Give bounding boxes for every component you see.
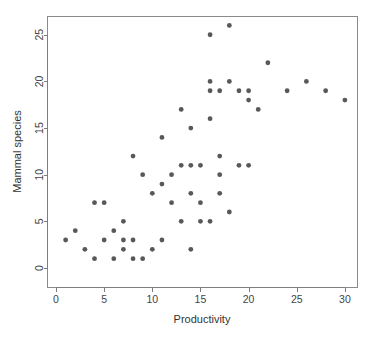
- data-point: [237, 88, 242, 93]
- data-point: [343, 98, 348, 103]
- data-point: [102, 200, 107, 205]
- data-point: [217, 172, 222, 177]
- data-point: [217, 88, 222, 93]
- data-point: [208, 32, 213, 37]
- data-point: [198, 200, 203, 205]
- x-tick-label-15: 15: [195, 293, 207, 305]
- data-point: [208, 116, 213, 121]
- data-point: [237, 163, 242, 168]
- data-point: [304, 79, 309, 84]
- data-point: [217, 154, 222, 159]
- data-point: [169, 200, 174, 205]
- data-point: [179, 163, 184, 168]
- data-point: [73, 228, 78, 233]
- x-tick-label-5: 5: [101, 293, 107, 305]
- data-point: [92, 200, 97, 205]
- data-point: [208, 88, 213, 93]
- data-point: [102, 238, 107, 243]
- data-point: [82, 247, 87, 252]
- data-point: [111, 228, 116, 233]
- y-tick-label-10: 10: [33, 169, 45, 181]
- data-point: [111, 256, 116, 261]
- data-point: [150, 247, 155, 252]
- data-point: [227, 23, 232, 28]
- data-point: [246, 98, 251, 103]
- x-tick-label-10: 10: [146, 293, 158, 305]
- data-point: [169, 172, 174, 177]
- x-tick-label-0: 0: [53, 293, 59, 305]
- data-point: [208, 79, 213, 84]
- x-tick-label-20: 20: [243, 293, 255, 305]
- data-point: [188, 247, 193, 252]
- data-point: [140, 172, 145, 177]
- data-point: [188, 191, 193, 196]
- data-point: [160, 135, 165, 140]
- data-point: [227, 210, 232, 215]
- y-axis-title: Mammal species: [11, 110, 23, 193]
- scatter-plot-figure: 051015202530 0510152025 Productivity Mam…: [0, 0, 373, 338]
- data-point: [92, 256, 97, 261]
- y-tick-label-5: 5: [33, 218, 45, 224]
- data-point: [63, 238, 68, 243]
- data-point: [131, 256, 136, 261]
- data-point: [140, 256, 145, 261]
- data-point: [160, 182, 165, 187]
- data-point: [150, 191, 155, 196]
- data-point: [198, 163, 203, 168]
- y-tick-label-0: 0: [33, 265, 45, 271]
- data-point: [121, 238, 126, 243]
- data-point: [246, 88, 251, 93]
- data-point: [121, 219, 126, 224]
- y-tick-label-20: 20: [33, 75, 45, 87]
- data-point: [121, 247, 126, 252]
- x-tick-label-30: 30: [339, 293, 351, 305]
- x-axis-title: Productivity: [174, 313, 231, 325]
- data-point: [179, 107, 184, 112]
- data-point: [227, 79, 232, 84]
- plot-canvas: 051015202530 0510152025 Productivity Mam…: [0, 0, 373, 338]
- data-point: [198, 219, 203, 224]
- y-tick-label-15: 15: [33, 122, 45, 134]
- data-point: [208, 219, 213, 224]
- data-point: [323, 88, 328, 93]
- y-tick-label-25: 25: [33, 29, 45, 41]
- data-point: [160, 238, 165, 243]
- x-tick-label-25: 25: [291, 293, 303, 305]
- data-point: [131, 238, 136, 243]
- data-point: [246, 163, 251, 168]
- data-point: [188, 163, 193, 168]
- data-point: [265, 60, 270, 65]
- data-point: [285, 88, 290, 93]
- data-point: [188, 126, 193, 131]
- data-point: [131, 154, 136, 159]
- data-point: [179, 219, 184, 224]
- data-point: [217, 191, 222, 196]
- data-point: [256, 107, 261, 112]
